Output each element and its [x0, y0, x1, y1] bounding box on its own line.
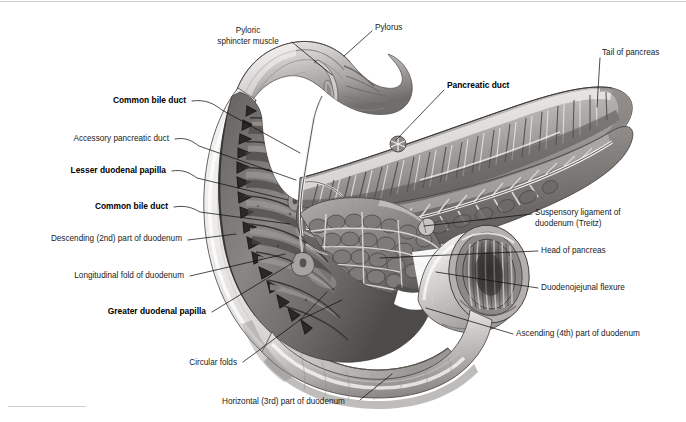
- label-ascending-fourth-part-of-duodenum: Ascending (4th) part of duodenum: [516, 329, 640, 338]
- label-head-of-pancreas: Head of pancreas: [541, 246, 606, 255]
- label-longitudinal-fold-of-duodenum: Longitudinal fold of duodenum: [74, 271, 184, 280]
- label-suspensory-ligament-line-2: duodenum (Treitz): [535, 219, 602, 228]
- label-descending-second-part-of-duodenum: Descending (2nd) part of duodenum: [51, 234, 182, 243]
- label-lesser-duodenal-papilla: Lesser duodenal papilla: [71, 165, 167, 175]
- label-circular-folds: Circular folds: [189, 358, 237, 367]
- anatomical-figure: Pyloricsphincter muscle Pylorus Tail of …: [0, 0, 686, 422]
- label-suspensory-ligament-line-1: Suspensory ligament of: [535, 208, 621, 217]
- label-pancreatic-duct: Pancreatic duct: [447, 80, 510, 90]
- label-duodenojejunal-flexure: Duodenojejunal flexure: [541, 283, 625, 292]
- label-horizontal-third-part-of-duodenum: Horizontal (3rd) part of duodenum: [222, 397, 345, 406]
- label-pyloric-sphincter-muscle-line-2: sphincter muscle: [217, 37, 279, 46]
- label-greater-duodenal-papilla: Greater duodenal papilla: [108, 306, 207, 316]
- label-common-bile-duct-lower: Common bile duct: [95, 201, 168, 211]
- label-tail-of-pancreas: Tail of pancreas: [602, 48, 659, 57]
- label-pylorus: Pylorus: [375, 23, 402, 32]
- anatomy-illustration-canvas: Pyloricsphincter muscle Pylorus Tail of …: [0, 0, 686, 422]
- label-accessory-pancreatic-duct: Accessory pancreatic duct: [73, 134, 169, 143]
- label-pyloric-sphincter-muscle-line-1: Pyloric: [236, 26, 261, 35]
- label-common-bile-duct-upper: Common bile duct: [113, 95, 186, 105]
